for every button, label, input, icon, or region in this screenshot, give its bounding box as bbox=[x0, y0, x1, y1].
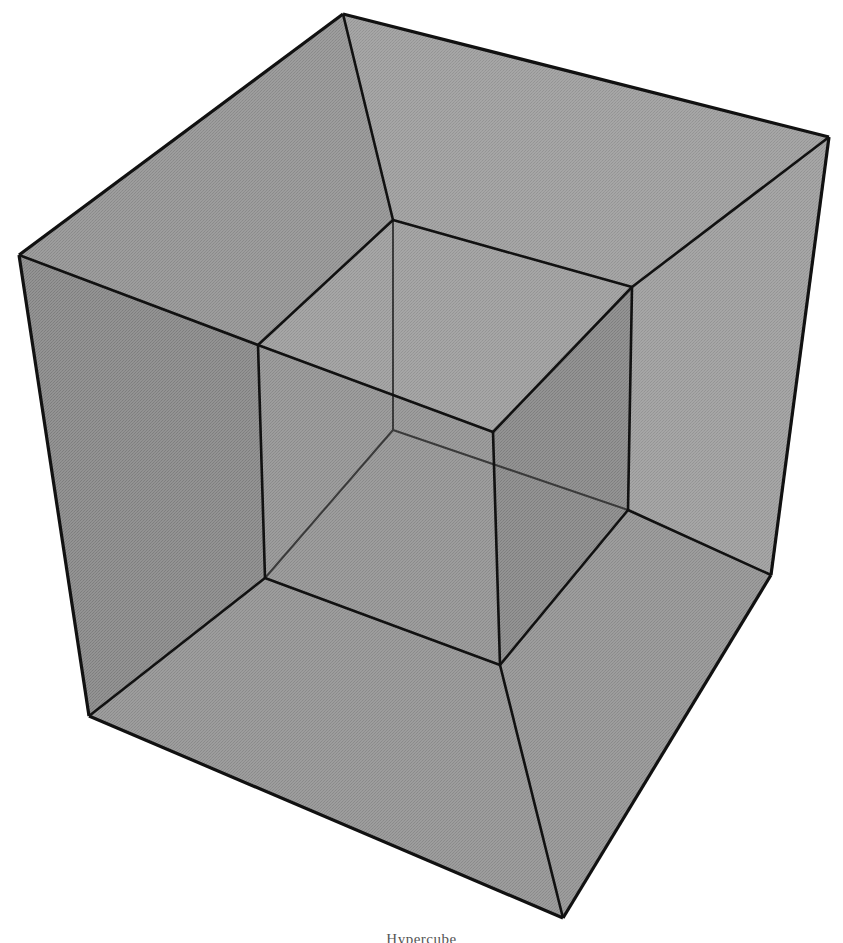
face-group bbox=[19, 14, 829, 918]
figure-caption: Hypercube bbox=[0, 931, 843, 943]
